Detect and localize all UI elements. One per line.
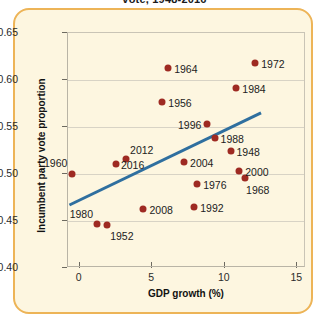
- plot-area: 1948195219561960196419681972197619801984…: [67, 32, 305, 267]
- y-tick-label: 0.45: [0, 214, 18, 226]
- data-point-label: 1988: [221, 133, 244, 145]
- data-point[interactable]: [227, 148, 234, 155]
- data-point-label: 1964: [174, 63, 197, 75]
- chart-figure: vote, 1948-2016 Incumbent party vote pro…: [0, 0, 329, 321]
- figure-title: vote, 1948-2016: [0, 0, 329, 5]
- x-tick-label: 0: [76, 271, 82, 283]
- data-point-label: 1996: [178, 119, 201, 131]
- data-point[interactable]: [233, 84, 240, 91]
- data-point[interactable]: [236, 168, 243, 175]
- data-point[interactable]: [165, 64, 172, 71]
- data-point-label: 1992: [200, 202, 223, 214]
- data-point[interactable]: [211, 135, 218, 142]
- data-point[interactable]: [252, 60, 259, 67]
- data-point-label: 1960: [44, 157, 67, 169]
- data-point[interactable]: [191, 203, 198, 210]
- data-point-label: 1972: [261, 58, 284, 70]
- x-tick-label: 10: [218, 271, 230, 283]
- data-point-label: 1984: [242, 83, 265, 95]
- data-point[interactable]: [112, 160, 119, 167]
- data-point[interactable]: [104, 221, 111, 228]
- data-point-label: 1952: [110, 230, 133, 242]
- data-point[interactable]: [94, 220, 101, 227]
- data-point[interactable]: [159, 98, 166, 105]
- y-tick-label: 0.50: [0, 167, 18, 179]
- y-tick-label: 0.40: [0, 261, 18, 273]
- x-tick-label: 5: [148, 271, 154, 283]
- data-point-label: 2016: [121, 159, 144, 171]
- data-point[interactable]: [69, 171, 76, 178]
- data-point[interactable]: [140, 205, 147, 212]
- data-point-label: 1976: [203, 179, 226, 191]
- data-point-label: 1980: [70, 208, 93, 220]
- data-point-label: 1968: [246, 184, 269, 196]
- x-axis-title: GDP growth (%): [67, 288, 305, 299]
- x-tick-label: 15: [290, 271, 302, 283]
- y-tick-label: 0.55: [0, 120, 18, 132]
- data-point-label: 2000: [245, 166, 268, 178]
- y-tick-label: 0.60: [0, 73, 18, 85]
- data-point[interactable]: [204, 121, 211, 128]
- y-tick-mark: [62, 267, 67, 268]
- data-point-label: 1956: [168, 97, 191, 109]
- y-tick-label: 0.65: [0, 26, 18, 38]
- data-point-label: 2012: [130, 144, 153, 156]
- data-point-label: 1948: [237, 146, 260, 158]
- data-point-label: 2004: [190, 157, 213, 169]
- data-point[interactable]: [181, 158, 188, 165]
- y-axis-title: Incumbent party vote proportion: [36, 71, 47, 241]
- data-point[interactable]: [194, 181, 201, 188]
- data-point-label: 2008: [149, 204, 172, 216]
